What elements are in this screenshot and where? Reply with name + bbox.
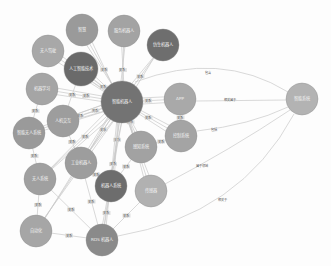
- knowledge-graph: 关系关系关系关系关系关系关系关系关系关系关系关系关系关系关系关系关系关系关系关系…: [0, 0, 331, 266]
- edge-label: 关系: [35, 202, 41, 207]
- edge-label: 关系: [103, 210, 109, 215]
- edge-label: 包括: [211, 127, 218, 132]
- edge-label: 关系: [101, 67, 107, 72]
- graph-node[interactable]: APP: [164, 83, 196, 115]
- edge-n9-n18: [196, 100, 286, 101]
- node-label: 服务机器人: [114, 27, 135, 34]
- graph-node[interactable]: 人机交互: [47, 105, 79, 137]
- edge-n0-n18: [135, 68, 288, 92]
- edge-label: 包含: [205, 70, 212, 75]
- graph-node[interactable]: 传感器: [135, 175, 167, 207]
- graph-node[interactable]: 仿生机器人: [147, 29, 179, 61]
- graph-node[interactable]: 服务机器人: [108, 15, 140, 47]
- edge-label: 相关于: [218, 197, 228, 202]
- edge-label: 关系: [177, 115, 183, 120]
- node-label: 智慧: [78, 26, 86, 33]
- edge-label: 关系: [68, 207, 74, 212]
- edge-label: 关系: [100, 84, 106, 89]
- graph-node[interactable]: 智能机器人: [101, 81, 143, 123]
- edge-label: 关系: [137, 74, 143, 79]
- graph-node[interactable]: 控制系统: [165, 120, 197, 152]
- graph-node[interactable]: 无人系统: [24, 163, 56, 195]
- graph-node[interactable]: 人工智能技术: [64, 52, 98, 86]
- edge-label: 关系: [82, 134, 88, 139]
- edge-label: 关系: [88, 199, 94, 204]
- edge-label: 关系: [66, 233, 72, 238]
- node-label: 工业机器人: [71, 159, 92, 166]
- edge-label: 关系: [32, 108, 38, 113]
- node-label: 无人系统: [32, 175, 48, 182]
- node-label: 智能无人系统: [17, 129, 41, 136]
- node-label: 自动化: [30, 227, 43, 234]
- node-label: 传感器: [145, 187, 158, 194]
- node-label: ROS 机器人: [91, 236, 114, 243]
- node-label: 智能系统: [294, 95, 310, 102]
- edge-label: 关系: [145, 98, 151, 103]
- edge-label: 关系: [123, 213, 129, 218]
- node-label: 机器人系统: [101, 182, 121, 189]
- edge-label: 关系: [145, 115, 151, 120]
- graph-node[interactable]: 机器学习: [26, 73, 58, 105]
- node-label: 感知系统: [133, 143, 149, 150]
- edge-label: 关系: [83, 93, 89, 98]
- edge-label: 相关属于: [224, 97, 237, 102]
- edge-label: 关系: [110, 161, 116, 166]
- edge-label: 属于领域: [196, 163, 209, 168]
- node-label: 仿生机器人: [153, 41, 174, 48]
- graph-node[interactable]: 工业机器人: [65, 147, 97, 179]
- graph-node[interactable]: 感知系统: [125, 131, 157, 163]
- node-label: 控制系统: [173, 132, 189, 139]
- edge-label: 关系: [123, 164, 129, 169]
- edge-label: 关系: [119, 67, 125, 72]
- graph-node[interactable]: 机器人系统: [95, 170, 127, 202]
- node-label: APP: [176, 96, 184, 101]
- graph-node[interactable]: 无人驾驶: [32, 35, 64, 67]
- node-layer: 智能机器人智慧服务机器人仿生机器人无人驾驶人工智能技术机器学习人机交互智能无人系…: [13, 14, 318, 256]
- graph-node[interactable]: ROS 机器人: [86, 224, 118, 256]
- edge-label: 关系: [69, 139, 75, 144]
- node-label: 无人驾驶: [40, 47, 57, 54]
- node-label: 智能机器人: [112, 98, 133, 105]
- graph-node[interactable]: 智能无人系统: [13, 117, 45, 149]
- graph-node[interactable]: 智慧: [66, 14, 98, 46]
- graph-node[interactable]: 自动化: [20, 215, 52, 247]
- node-label: 机器学习: [34, 85, 50, 92]
- node-label: 人机交互: [55, 117, 71, 124]
- node-label: 人工智能技术: [69, 65, 94, 72]
- edge-label: 关系: [69, 92, 75, 97]
- edge-label: 关系: [158, 139, 164, 144]
- edge-label: 关系: [31, 153, 37, 158]
- graph-node[interactable]: 智能系统: [286, 83, 318, 115]
